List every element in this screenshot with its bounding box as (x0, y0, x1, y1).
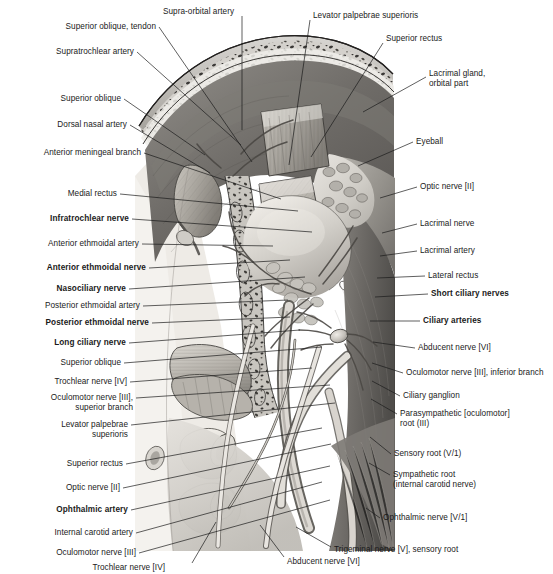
label-superior-rectus-right: Superior rectus (386, 34, 442, 44)
label-superior-oblique-tendon: Superior oblique, tendon (66, 22, 156, 32)
label-lacrimal-nerve: Lacrimal nerve (420, 219, 474, 229)
label-dorsal-nasal-artery: Dorsal nasal artery (57, 120, 127, 130)
label-lacrimal-gland-orbital-part: Lacrimal gland, orbital part (429, 69, 485, 89)
label-trochlear-nerve-iv-1: Trochlear nerve [IV] (54, 377, 127, 387)
orbit-illustration (133, 26, 395, 551)
label-lacrimal-artery: Lacrimal artery (420, 246, 475, 256)
label-oculomotor-nerve-iii-superior-branch: Oculomotor nerve [III], superior branch (51, 393, 133, 413)
label-abducent-nerve-vi-bottom: Abducent nerve [VI] (287, 557, 360, 567)
label-posterior-ethmoidal-artery: Posterior ethmoidal artery (45, 301, 140, 311)
label-superior-rectus-left: Superior rectus (67, 459, 123, 469)
label-trochlear-nerve-iv-bottom: Trochlear nerve [IV] (92, 563, 165, 573)
label-nasociliary-nerve: Nasociliary nerve (56, 284, 126, 294)
label-ophthalmic-artery: Ophthalmic artery (56, 505, 128, 515)
label-supratrochlear-artery: Supratrochlear artery (56, 47, 134, 57)
label-optic-nerve-ii-left: Optic nerve [II] (66, 483, 120, 493)
label-anterior-ethmoidal-artery: Anterior ethmoidal artery (48, 239, 139, 249)
label-oculomotor-nerve-iii-left: Oculomotor nerve [III] (56, 548, 136, 558)
label-eyeball: Eyeball (416, 137, 443, 147)
label-oculomotor-nerve-iii-inferior-branch: Oculomotor nerve [III], inferior branch (406, 368, 544, 378)
label-internal-carotid-artery: Internal carotid artery (54, 528, 133, 538)
label-short-ciliary-nerves: Short ciliary nerves (431, 289, 509, 299)
label-ciliary-ganglion: Ciliary ganglion (403, 391, 460, 401)
label-lateral-rectus: Lateral rectus (428, 271, 478, 281)
label-abducent-nerve-vi-right: Abducent nerve [VI] (418, 343, 491, 353)
label-trigeminal-nerve-v-sensory-root: Trigeminal nerve [V], sensory root (334, 545, 458, 555)
label-superior-oblique-2: Superior oblique (61, 358, 121, 368)
label-anterior-meningeal-branch: Anterior meningeal branch (44, 148, 141, 158)
label-levator-palpebrae-superioris-left: Levator palpebrae superioris (61, 420, 128, 440)
label-posterior-ethmoidal-nerve: Posterior ethmoidal nerve (45, 318, 149, 328)
label-sympathetic-root-internal-carotid-nerve: Sympathetic root (internal carotid nerve… (393, 470, 476, 490)
label-levator-palpebrae-superioris-right: Levator palpebrae superioris (313, 11, 418, 21)
anatomy-plate: Superior oblique, tendon Supratrochlear … (0, 0, 553, 574)
label-long-ciliary-nerve: Long ciliary nerve (54, 338, 126, 348)
label-ophthalmic-nerve-v1: Ophthalmic nerve [V/1] (383, 513, 467, 523)
label-anterior-ethmoidal-nerve: Anterior ethmoidal nerve (47, 263, 146, 273)
label-supra-orbital-artery: Supra-orbital artery (163, 7, 234, 17)
label-infratrochlear-nerve: Infratrochlear nerve (50, 214, 129, 224)
label-ciliary-arteries: Ciliary arteries (423, 316, 482, 326)
label-medial-rectus: Medial rectus (68, 189, 117, 199)
label-superior-oblique-1: Superior oblique (61, 94, 121, 104)
label-optic-nerve-ii-right: Optic nerve [II] (420, 182, 474, 192)
label-parasympathetic-oculomotor-root: Parasympathetic [oculomotor] root (III) (400, 409, 510, 429)
label-sensory-root-v1: Sensory root (V/1) (394, 449, 461, 459)
